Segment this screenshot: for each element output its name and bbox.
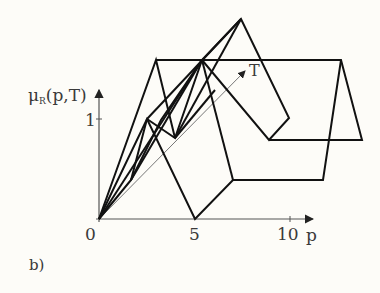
x-tick-label-5: 5 <box>189 226 200 243</box>
x-tick-label-0: 0 <box>85 226 96 243</box>
slice-peak <box>202 19 289 140</box>
x-axis-label: p <box>306 227 317 244</box>
diagram-canvas <box>0 0 380 293</box>
membership-wireframe <box>99 19 362 219</box>
membership-surface-diagram: μR(p,T) 1 0 5 10 p T b) <box>0 0 380 293</box>
panel-label: b) <box>29 258 44 273</box>
t-axis-label: T <box>249 63 260 79</box>
axes <box>96 71 313 222</box>
y-tick-label-1: 1 <box>85 112 96 129</box>
x-tick-label-10: 10 <box>277 226 299 243</box>
y-axis-label: μR(p,T) <box>28 87 87 106</box>
ridge-3 <box>99 60 202 219</box>
